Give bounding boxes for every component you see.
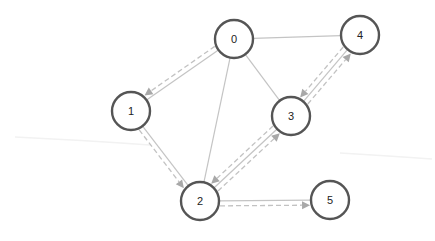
graph-diagram: 012345 xyxy=(0,0,435,241)
node-5[interactable]: 5 xyxy=(311,181,349,219)
traversal-arrow-3-to-2 xyxy=(211,126,273,184)
traversal-arrow-1-to-2 xyxy=(139,130,184,188)
arrowhead-icon xyxy=(176,179,184,188)
edge-2-3 xyxy=(214,129,277,188)
edge-1-2 xyxy=(143,126,189,186)
traversal-arrow-2-to-5 xyxy=(220,201,310,209)
arrowhead-icon xyxy=(145,88,154,96)
node-3[interactable]: 3 xyxy=(272,97,310,135)
edge-3-4 xyxy=(303,49,347,101)
artifact-line-right xyxy=(340,153,432,159)
artifact-line-left xyxy=(15,137,150,145)
node-label: 3 xyxy=(288,110,294,122)
arrowhead-icon xyxy=(302,201,310,209)
dashed-line xyxy=(218,139,274,191)
edge-0-2 xyxy=(204,58,230,183)
edge-0-4 xyxy=(253,36,341,39)
dashed-line xyxy=(139,130,179,182)
traversal-arrow-2-to-3 xyxy=(218,133,280,191)
node-label: 5 xyxy=(327,194,333,206)
node-label: 1 xyxy=(128,105,134,117)
dashed-line xyxy=(151,46,215,90)
dashed-line xyxy=(217,126,273,178)
nodes: 012345 xyxy=(112,16,379,220)
node-1[interactable]: 1 xyxy=(112,92,150,130)
edges xyxy=(143,36,348,201)
node-label: 2 xyxy=(197,195,203,207)
node-0[interactable]: 0 xyxy=(215,20,253,58)
node-label: 4 xyxy=(357,29,363,41)
edge-0-3 xyxy=(245,54,279,100)
node-2[interactable]: 2 xyxy=(181,182,219,220)
node-4[interactable]: 4 xyxy=(341,16,379,54)
edge-0-1 xyxy=(147,50,219,100)
background-artifacts xyxy=(15,137,432,159)
traversal-arrow-3-to-4 xyxy=(308,53,351,104)
traversal-arrow-4-to-3 xyxy=(300,47,343,98)
traversal-arrow-0-to-1 xyxy=(145,46,215,95)
edge-2-5 xyxy=(219,200,311,201)
node-label: 0 xyxy=(231,33,237,45)
dashed-line xyxy=(220,205,302,206)
